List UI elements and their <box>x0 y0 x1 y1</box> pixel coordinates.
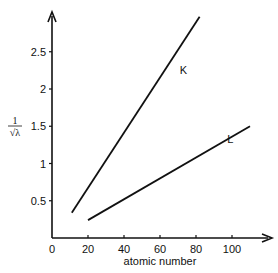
y-axis-title-numerator: 1 <box>13 115 18 126</box>
x-tick-label: 40 <box>118 243 130 255</box>
x-tick-label: 80 <box>190 243 202 255</box>
y-tick-label: 1 <box>40 158 46 170</box>
x-axis-title: atomic number <box>124 255 197 267</box>
series-line-L <box>88 126 250 220</box>
y-axis-title-denominator: √λ <box>10 127 20 138</box>
series-label-K: K <box>180 64 188 76</box>
axes <box>48 12 272 242</box>
y-tick-label: 1.5 <box>31 120 46 132</box>
y-axis-title: 1 √λ <box>8 115 22 138</box>
series: KL <box>72 17 250 220</box>
y-tick-label: 2 <box>40 83 46 95</box>
series-label-L: L <box>227 133 233 145</box>
x-tick-label: 100 <box>223 243 241 255</box>
x-tick-label: 0 <box>49 243 55 255</box>
y-tick-label: 2.5 <box>31 46 46 58</box>
x-tick-label: 20 <box>82 243 94 255</box>
series-line-K <box>72 17 200 213</box>
y-tick-label: 0.5 <box>31 195 46 207</box>
x-tick-label: 60 <box>154 243 166 255</box>
chart: 0204060801000.511.522.5 KL atomic number… <box>0 0 278 273</box>
